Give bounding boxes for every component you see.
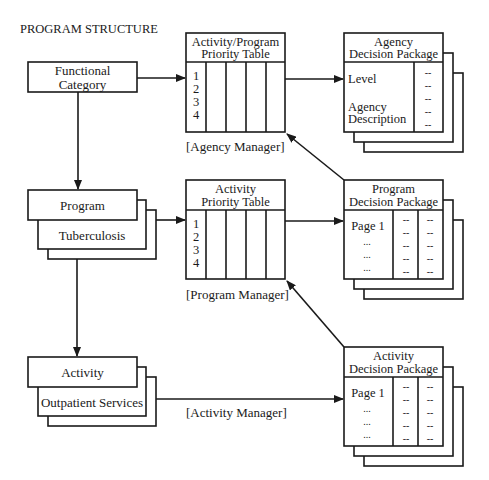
program-structure-diagram: PROGRAM STRUCTURE Functional Category Pr… xyxy=(0,0,489,480)
agency-package-dash-4: -- xyxy=(425,106,432,117)
diagram-title: PROGRAM STRUCTURE xyxy=(20,22,158,36)
arrow-program-package-to-agency-table xyxy=(287,134,344,180)
program-package-c2-dash-5: -- xyxy=(427,266,434,277)
activity-package-c1-dash-1: -- xyxy=(403,381,410,392)
agency-package-item-level: Level xyxy=(348,72,377,86)
program-box-stack: Program Tuberculosis xyxy=(28,190,156,259)
program-package-item-ellipsis-3: ... xyxy=(363,262,371,273)
activity-package-item-ellipsis-3: ... xyxy=(363,429,371,440)
program-package-c2-dash-2: -- xyxy=(427,227,434,238)
program-manager-label: [Program Manager] xyxy=(186,287,289,302)
program-label: Program xyxy=(60,198,105,213)
activity-package-title-line1: Activity xyxy=(373,349,415,363)
program-example-label: Tuberculosis xyxy=(59,228,126,243)
activity-package-c1-dash-4: -- xyxy=(403,420,410,431)
program-table-rank-3: 3 xyxy=(193,243,199,257)
program-table-rank-1: 1 xyxy=(193,217,199,231)
agency-table-rank-2: 2 xyxy=(193,82,199,96)
activity-manager-label: [Activity Manager] xyxy=(186,405,287,420)
agency-package-dash-3: -- xyxy=(425,93,432,104)
activity-package-c2-dash-2: -- xyxy=(427,394,434,405)
agency-table-rank-4: 4 xyxy=(193,108,200,122)
agency-table-title-line2: Priority Table xyxy=(201,47,270,61)
activity-package-c2-dash-4: -- xyxy=(427,420,434,431)
functional-category-label-line2: Category xyxy=(59,77,107,92)
program-package-item-page1: Page 1 xyxy=(351,219,385,233)
arrow-activity-package-to-program-table xyxy=(287,281,344,347)
program-package-c1-dash-5: -- xyxy=(403,266,410,277)
program-package-c2-dash-3: -- xyxy=(427,240,434,251)
program-package-title-line2: Decision Package xyxy=(349,195,439,209)
agency-package-item-description: Description xyxy=(348,112,407,126)
agency-table-rank-1: 1 xyxy=(193,69,199,83)
program-table-rank-4: 4 xyxy=(193,256,200,270)
activity-package-c2-dash-1: -- xyxy=(427,381,434,392)
program-package-c1-dash-2: -- xyxy=(403,227,410,238)
program-package-title-line1: Program xyxy=(372,182,415,196)
activity-package-item-ellipsis-2: ... xyxy=(363,416,371,427)
activity-package-title-line2: Decision Package xyxy=(349,362,439,376)
activity-package-c1-dash-3: -- xyxy=(403,407,410,418)
activity-package-item-ellipsis-1: ... xyxy=(363,403,371,414)
program-package-c1-dash-3: -- xyxy=(403,240,410,251)
activity-package-c2-dash-5: -- xyxy=(427,433,434,444)
activity-package-c1-dash-2: -- xyxy=(403,394,410,405)
agency-package-dash-1: -- xyxy=(425,67,432,78)
agency-package-title-line2: Decision Package xyxy=(349,47,439,61)
agency-manager-label: [Agency Manager] xyxy=(186,139,285,154)
agency-table-rank-3: 3 xyxy=(193,95,199,109)
program-decision-package: Program Decision Package Page 1 ... ... … xyxy=(344,180,463,299)
activity-package-item-page1: Page 1 xyxy=(351,386,385,400)
functional-category-box: Functional Category xyxy=(28,62,137,92)
functional-category-label-line1: Functional xyxy=(55,63,111,78)
program-package-item-ellipsis-1: ... xyxy=(363,236,371,247)
program-package-c2-dash-1: -- xyxy=(427,214,434,225)
program-table-title-line2: Priority Table xyxy=(201,195,270,209)
activity-package-c2-dash-3: -- xyxy=(427,407,434,418)
program-package-item-ellipsis-2: ... xyxy=(363,249,371,260)
agency-priority-table: Activity/Program Priority Table 1 2 3 4 xyxy=(186,33,285,132)
program-priority-table: Activity Priority Table 1 2 3 4 xyxy=(186,180,285,279)
program-table-rank-2: 2 xyxy=(193,230,199,244)
activity-box-stack: Activity Outpatient Services xyxy=(28,357,156,426)
activity-label: Activity xyxy=(61,365,104,380)
activity-example-label: Outpatient Services xyxy=(41,395,143,410)
activity-package-c1-dash-5: -- xyxy=(403,433,410,444)
program-package-c1-dash-1: -- xyxy=(403,214,410,225)
activity-decision-package: Activity Decision Package Page 1 ... ...… xyxy=(344,347,463,466)
agency-decision-package: Agency Decision Package Level Agency Des… xyxy=(344,33,463,152)
agency-package-dash-5: -- xyxy=(425,119,432,130)
agency-package-dash-2: -- xyxy=(425,80,432,91)
program-package-c2-dash-4: -- xyxy=(427,253,434,264)
program-package-c1-dash-4: -- xyxy=(403,253,410,264)
program-table-title-line1: Activity xyxy=(215,182,257,196)
